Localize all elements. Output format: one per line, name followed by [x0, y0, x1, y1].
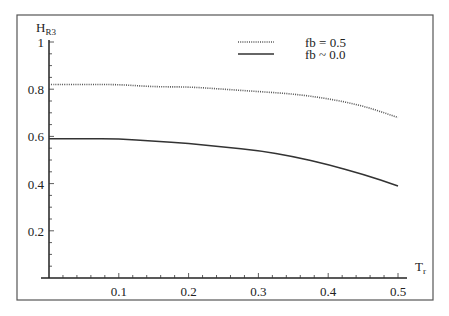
legend: fb = 0.5 fb ~ 0.0: [238, 35, 346, 62]
x-axis-label: Tr: [415, 259, 426, 276]
tick-labels: 0.10.20.30.40.50.20.40.60.81: [28, 35, 406, 299]
legend-label-fb-0.0: fb ~ 0.0: [305, 47, 346, 62]
y-tick-label: 0.8: [28, 82, 44, 97]
x-tick-label: 0.5: [390, 284, 406, 299]
x-tick-label: 0.1: [111, 284, 127, 299]
y-tick-label: 1: [38, 35, 45, 50]
x-tick-label: 0.2: [180, 284, 196, 299]
y-tick-label: 0.2: [28, 224, 44, 239]
line-chart: 0.10.20.30.40.50.20.40.60.81 HR3 Tr fb =…: [0, 0, 449, 316]
y-tick-label: 0.4: [28, 177, 45, 192]
series-fb-0.5-line: [49, 84, 398, 117]
x-tick-label: 0.3: [250, 284, 266, 299]
chart-frame: [17, 15, 433, 300]
y-tick-label: 0.6: [28, 129, 45, 144]
axis-ticks: [49, 42, 398, 278]
x-tick-label: 0.4: [320, 284, 337, 299]
y-axis-label: HR3: [36, 20, 56, 37]
series-fb-0.0-line: [49, 139, 398, 186]
